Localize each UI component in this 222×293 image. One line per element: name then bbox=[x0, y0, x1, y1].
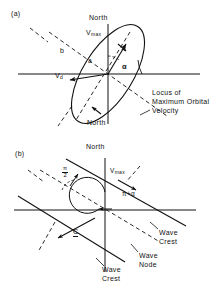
panel-a-north-top-label: North bbox=[89, 14, 108, 22]
wave-crest-right-line-2: Crest bbox=[159, 237, 178, 246]
vd-label-a: Vd bbox=[55, 72, 63, 81]
ellipse-minor-axis-dashed bbox=[76, 32, 130, 120]
tangent-dashed-upper-left bbox=[30, 28, 48, 42]
locus-annotation: Locus of Maximum Orbital Velocity bbox=[152, 88, 209, 115]
vmax-label-a: Vmax bbox=[86, 29, 101, 38]
wave-crest-bottom-line-2: Crest bbox=[102, 274, 121, 283]
figure-vector-graphics bbox=[0, 0, 222, 293]
pi-plus-alpha-arc bbox=[69, 177, 105, 213]
locus-line-3: Velocity bbox=[152, 106, 209, 115]
figure-container: (a) North North Vmax Vd b a α Locus of M… bbox=[0, 0, 222, 293]
wave-crest-bottom-label: Wave Crest bbox=[102, 265, 121, 283]
angle-label-inner-a: a bbox=[88, 57, 92, 65]
locus-line-1: Locus of bbox=[152, 88, 209, 97]
locus-leader-line bbox=[140, 110, 150, 115]
half-pi-denominator: 2 bbox=[62, 173, 68, 179]
wave-node-label: Wave Node bbox=[139, 251, 158, 269]
wave-node-line-2: Node bbox=[139, 260, 158, 269]
panel-b-north-label: North bbox=[86, 143, 105, 151]
node-dash-upper-right bbox=[126, 166, 140, 182]
panel-a-graphics bbox=[18, 13, 200, 134]
vmax-subscript-a: max bbox=[91, 31, 101, 37]
wave-crest-line-lower bbox=[18, 196, 125, 262]
wave-node-line-1: Wave bbox=[139, 251, 158, 260]
ellipse-direction-arrow-bottom bbox=[92, 107, 101, 114]
wave-crest-right-label: Wave Crest bbox=[159, 228, 178, 246]
panel-a-label: (a) bbox=[11, 10, 20, 18]
semi-major-axis-label-b: b bbox=[60, 47, 64, 55]
c-vector-label: C bbox=[73, 228, 78, 237]
wave-node-leader bbox=[131, 244, 138, 252]
panel-a-north-bottom-label: North bbox=[87, 119, 106, 127]
wave-crest-right-leader bbox=[150, 222, 158, 229]
node-dash-upper-left bbox=[28, 170, 44, 182]
vmax-vector-b bbox=[118, 180, 136, 190]
tangent-dashed-lower bbox=[58, 106, 72, 126]
half-pi-label: π2 bbox=[62, 166, 68, 178]
wave-crest-bottom-line-1: Wave bbox=[102, 265, 121, 274]
half-pi-arrow bbox=[70, 174, 78, 186]
angle-label-alpha-a: α bbox=[122, 63, 127, 71]
vmax-label-b: Vmax bbox=[110, 167, 125, 176]
panel-b-graphics bbox=[14, 158, 196, 272]
locus-line-2: Maximum Orbital bbox=[152, 97, 209, 106]
wave-node-line-dashed bbox=[40, 170, 160, 242]
node-dash-lower-left bbox=[38, 222, 55, 252]
vmax-subscript-b: max bbox=[115, 169, 125, 175]
wave-crest-right-line-1: Wave bbox=[159, 228, 178, 237]
panel-b-label: (b) bbox=[15, 150, 24, 158]
vd-subscript-a: d bbox=[60, 74, 63, 80]
pi-plus-alpha-label: π+α bbox=[122, 190, 135, 198]
